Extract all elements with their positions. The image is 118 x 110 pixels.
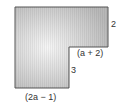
label-right-height: 2 (111, 20, 116, 29)
l-shape-diagram: 2 (a + 2) 3 (2a − 1) (0, 0, 118, 110)
label-bottom-width: (2a − 1) (25, 93, 56, 102)
label-notch-width: (a + 2) (77, 49, 103, 58)
label-notch-height: 3 (71, 66, 76, 75)
